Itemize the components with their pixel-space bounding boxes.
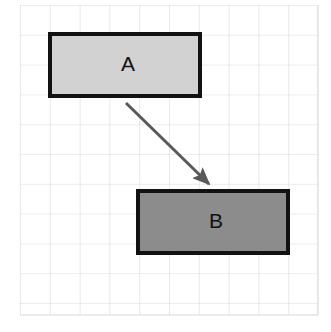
shape-box-a[interactable]: A <box>50 34 200 96</box>
shape-box-b[interactable]: B <box>138 191 288 253</box>
diagram-svg: A B <box>0 0 331 332</box>
diagram-canvas: A B <box>0 0 331 332</box>
rectangle-b-label: B <box>209 209 223 232</box>
rectangle-a-label: A <box>121 52 135 75</box>
